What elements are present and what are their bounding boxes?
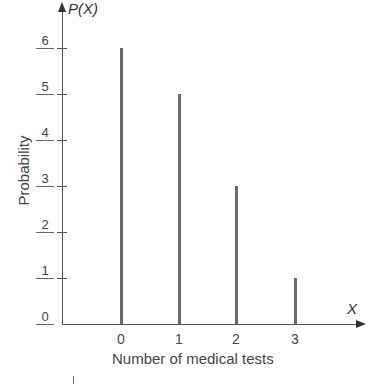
y-tick-label: 3 <box>36 172 54 187</box>
bar-x0 <box>120 48 123 324</box>
y-tick-label: 4 <box>36 126 54 141</box>
y-tick-2 <box>57 232 67 233</box>
y-axis-title: Probability <box>15 126 32 216</box>
y-tick-label: 5 <box>36 80 54 95</box>
y-tick-label: 1 <box>36 264 54 279</box>
y-tick-4 <box>57 140 67 141</box>
bar-x3 <box>294 278 297 324</box>
bar-x2 <box>235 186 238 324</box>
x-axis-title: Number of medical tests <box>112 350 274 367</box>
x-tick-label: 2 <box>226 331 246 347</box>
y-tick-6 <box>57 48 67 49</box>
x-axis-line <box>62 324 359 325</box>
y-tick-label: 2 <box>36 218 54 233</box>
y-axis-arrow-icon <box>58 2 66 12</box>
y-tick-5 <box>57 94 67 95</box>
y-tick-label: 6 <box>36 34 54 49</box>
y-axis-symbol: P(X) <box>68 0 98 17</box>
x-axis-symbol: X <box>347 300 357 317</box>
y-tick-label: 0 <box>36 310 54 325</box>
stray-mark <box>73 376 74 384</box>
x-axis-arrow-icon <box>356 320 366 328</box>
x-tick-label: 0 <box>111 331 131 347</box>
y-tick-1 <box>57 278 67 279</box>
bar-x1 <box>178 94 181 324</box>
x-tick-label: 1 <box>169 331 189 347</box>
y-tick-3 <box>57 186 67 187</box>
x-tick-label: 3 <box>285 331 305 347</box>
